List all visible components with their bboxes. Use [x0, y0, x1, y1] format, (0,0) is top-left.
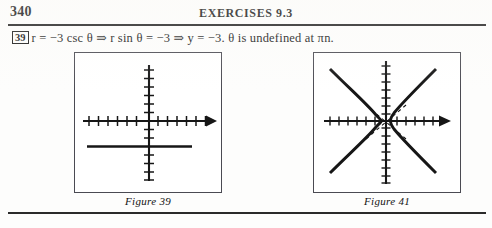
problem-solution-line: 39r = −3 csc θ ⇒ r sin θ = −3 ⇒ y = −3. … — [12, 29, 482, 47]
page-header: 340 EXERCISES 9.3 — [0, 4, 492, 24]
figure-39-container — [74, 52, 222, 193]
figure-39-caption: Figure 39 — [74, 195, 222, 207]
x-axis-arrowhead — [206, 116, 217, 127]
textbook-page: 340 EXERCISES 9.3 39r = −3 csc θ ⇒ r sin… — [0, 0, 492, 228]
figure-39-plot — [75, 53, 220, 191]
problem-statement: r = −3 csc θ ⇒ r sin θ = −3 ⇒ y = −3. θ … — [32, 31, 334, 45]
footer-rule — [8, 212, 486, 214]
figure-41-container — [313, 52, 461, 193]
problem-number-badge: 39 — [12, 31, 29, 44]
figure-41-plot — [314, 53, 459, 191]
header-rule — [8, 24, 486, 26]
page-title: EXERCISES 9.3 — [0, 6, 492, 21]
figure-41-frame — [313, 52, 461, 193]
figure-39-frame — [74, 52, 222, 193]
x-axis-arrowhead — [439, 116, 451, 127]
figure-41-caption: Figure 41 — [313, 195, 461, 207]
